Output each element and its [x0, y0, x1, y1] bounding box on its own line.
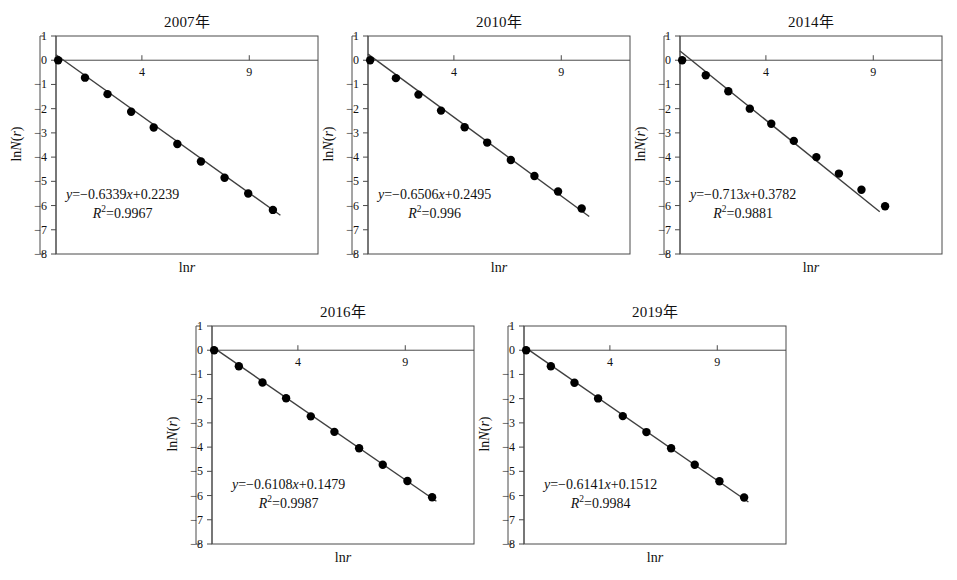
- svg-text:−3: −3: [658, 126, 671, 140]
- svg-text:4: 4: [295, 355, 301, 369]
- x-axis-label: lnr: [524, 550, 786, 566]
- svg-text:9: 9: [246, 65, 252, 79]
- svg-text:−6: −6: [34, 199, 47, 213]
- regression-annotation: y=−0.6506x+0.2495R2=0.996: [378, 186, 491, 222]
- plot-area: 10−1−2−3−4−5−6−7−849: [166, 300, 478, 550]
- r-squared-value: R2=0.9881: [690, 204, 796, 222]
- svg-text:0: 0: [41, 53, 47, 67]
- svg-text:9: 9: [870, 65, 876, 79]
- chart-panel-1: 2010年lnN(r)lnr10−1−2−3−4−5−6−7−849y=−0.6…: [368, 10, 630, 284]
- svg-text:−8: −8: [658, 247, 671, 261]
- svg-text:1: 1: [41, 29, 47, 43]
- svg-text:−7: −7: [346, 223, 359, 237]
- chart-panel-3: 2016年lnN(r)lnr10−1−2−3−4−5−6−7−849y=−0.6…: [212, 300, 474, 574]
- r-squared-value: R2=0.9984: [544, 494, 657, 512]
- svg-text:−7: −7: [502, 513, 515, 527]
- svg-text:−1: −1: [658, 77, 671, 91]
- svg-text:−7: −7: [190, 513, 203, 527]
- svg-text:−3: −3: [502, 416, 515, 430]
- svg-text:−1: −1: [190, 367, 203, 381]
- svg-text:−8: −8: [34, 247, 47, 261]
- svg-text:−5: −5: [658, 174, 671, 188]
- plot-area: 10−1−2−3−4−5−6−7−849: [634, 10, 946, 260]
- plot-area: 10−1−2−3−4−5−6−7−849: [478, 300, 790, 550]
- r-squared-value: R2=0.9987: [232, 494, 345, 512]
- svg-text:−6: −6: [346, 199, 359, 213]
- svg-text:1: 1: [353, 29, 359, 43]
- svg-text:4: 4: [139, 65, 145, 79]
- svg-text:−8: −8: [502, 537, 515, 551]
- regression-equation: y=−0.6141x+0.1512: [544, 476, 657, 494]
- chart-panel-0: 2007年lnN(r)lnr10−1−2−3−4−5−6−7−849y=−0.6…: [56, 10, 318, 284]
- svg-text:1: 1: [665, 29, 671, 43]
- plot-area: 10−1−2−3−4−5−6−7−849: [10, 10, 322, 260]
- svg-text:−7: −7: [34, 223, 47, 237]
- svg-text:−5: −5: [34, 174, 47, 188]
- svg-text:9: 9: [402, 355, 408, 369]
- svg-text:−3: −3: [190, 416, 203, 430]
- svg-text:0: 0: [509, 343, 515, 357]
- svg-text:4: 4: [763, 65, 769, 79]
- svg-text:−8: −8: [346, 247, 359, 261]
- regression-annotation: y=−0.6339x+0.2239R2=0.9967: [66, 186, 179, 222]
- regression-annotation: y=−0.6108x+0.1479R2=0.9987: [232, 476, 345, 512]
- svg-text:−2: −2: [34, 102, 47, 116]
- svg-text:4: 4: [607, 355, 613, 369]
- svg-text:−1: −1: [346, 77, 359, 91]
- svg-text:−7: −7: [658, 223, 671, 237]
- x-axis-label: lnr: [212, 550, 474, 566]
- x-axis-label: lnr: [368, 260, 630, 276]
- svg-text:1: 1: [197, 319, 203, 333]
- svg-text:0: 0: [197, 343, 203, 357]
- svg-text:−6: −6: [658, 199, 671, 213]
- svg-text:−4: −4: [34, 150, 47, 164]
- plot-area: 10−1−2−3−4−5−6−7−849: [322, 10, 634, 260]
- r-squared-value: R2=0.996: [378, 204, 491, 222]
- regression-equation: y=−0.6108x+0.1479: [232, 476, 345, 494]
- svg-text:−5: −5: [502, 464, 515, 478]
- svg-text:−2: −2: [658, 102, 671, 116]
- chart-panel-4: 2019年lnN(r)lnr10−1−2−3−4−5−6−7−849y=−0.6…: [524, 300, 786, 574]
- svg-text:0: 0: [353, 53, 359, 67]
- svg-text:−1: −1: [34, 77, 47, 91]
- svg-text:−4: −4: [190, 440, 203, 454]
- svg-text:9: 9: [714, 355, 720, 369]
- x-axis-label: lnr: [56, 260, 318, 276]
- svg-text:−2: −2: [346, 102, 359, 116]
- svg-text:4: 4: [451, 65, 457, 79]
- svg-text:−6: −6: [190, 489, 203, 503]
- svg-text:−8: −8: [190, 537, 203, 551]
- svg-text:1: 1: [509, 319, 515, 333]
- svg-text:−3: −3: [346, 126, 359, 140]
- svg-text:−3: −3: [34, 126, 47, 140]
- svg-text:−2: −2: [502, 392, 515, 406]
- regression-annotation: y=−0.6141x+0.1512R2=0.9984: [544, 476, 657, 512]
- svg-text:−1: −1: [502, 367, 515, 381]
- svg-text:−4: −4: [658, 150, 671, 164]
- chart-panel-2: 2014年lnN(r)lnr10−1−2−3−4−5−6−7−849y=−0.7…: [680, 10, 942, 284]
- svg-text:−5: −5: [346, 174, 359, 188]
- x-axis-label: lnr: [680, 260, 942, 276]
- svg-text:9: 9: [558, 65, 564, 79]
- r-squared-value: R2=0.9967: [66, 204, 179, 222]
- svg-text:−4: −4: [502, 440, 515, 454]
- regression-annotation: y=−0.713x+0.3782R2=0.9881: [690, 186, 796, 222]
- svg-text:−2: −2: [190, 392, 203, 406]
- svg-text:−6: −6: [502, 489, 515, 503]
- multi-panel-scatter-figure: 2007年lnN(r)lnr10−1−2−3−4−5−6−7−849y=−0.6…: [0, 0, 957, 580]
- svg-text:0: 0: [665, 53, 671, 67]
- regression-equation: y=−0.6339x+0.2239: [66, 186, 179, 204]
- svg-text:−4: −4: [346, 150, 359, 164]
- regression-equation: y=−0.6506x+0.2495: [378, 186, 491, 204]
- regression-equation: y=−0.713x+0.3782: [690, 186, 796, 204]
- svg-text:−5: −5: [190, 464, 203, 478]
